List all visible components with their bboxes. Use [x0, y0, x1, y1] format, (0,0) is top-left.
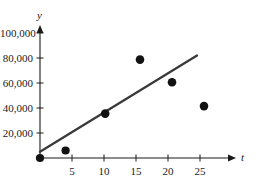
y-tick-label-60000: 60,000 — [0, 78, 33, 89]
data-point-3 — [136, 55, 145, 64]
data-point-2 — [101, 109, 110, 118]
x-tick-label-5: 5 — [62, 166, 82, 177]
data-point-0 — [36, 154, 44, 162]
trend-line — [40, 56, 197, 152]
chart-figure: 100,000 80,000 60,000 40,000 20,000 5 10… — [0, 0, 267, 187]
x-tick-label-25: 25 — [190, 166, 210, 177]
data-point-5 — [200, 102, 209, 111]
y-axis-arrow — [37, 25, 44, 33]
scatter-plot-canvas — [0, 0, 267, 187]
data-point-1 — [62, 146, 70, 154]
y-tick-label-100000: 100,000 — [0, 28, 33, 39]
y-tick-label-40000: 40,000 — [0, 103, 33, 114]
y-axis-label: y — [37, 10, 42, 21]
x-tick-label-15: 15 — [126, 166, 146, 177]
y-tick-label-80000: 80,000 — [0, 53, 33, 64]
x-axis-label: t — [241, 152, 244, 163]
data-point-4 — [168, 78, 177, 87]
x-axis-arrow — [228, 155, 236, 162]
x-tick-label-10: 10 — [94, 166, 114, 177]
data-points — [36, 55, 208, 162]
x-tick-label-20: 20 — [158, 166, 178, 177]
y-tick-label-20000: 20,000 — [0, 128, 33, 139]
